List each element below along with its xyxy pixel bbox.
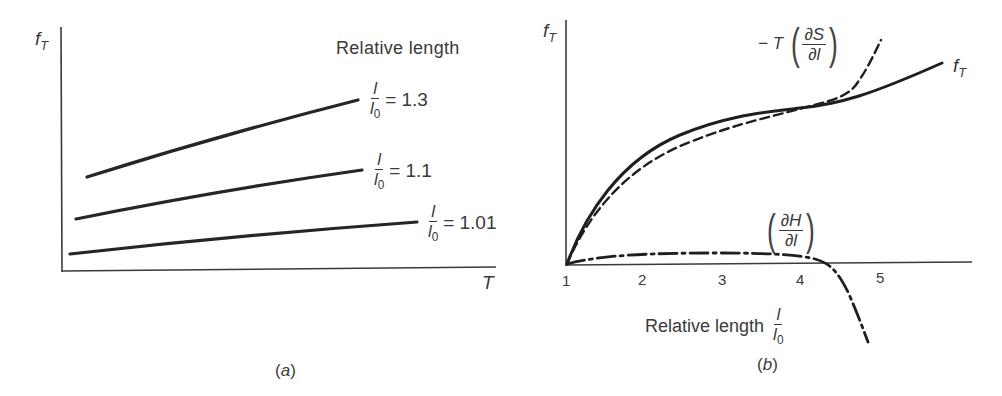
ratio-value: = 1.3 <box>385 89 428 110</box>
caption-paren-close: ) <box>290 361 296 380</box>
fraction-numerator: l <box>371 80 379 99</box>
panel-a-legend-title: Relative length <box>336 38 460 59</box>
f-t-sub: T <box>958 65 966 80</box>
y-label-sub: T <box>548 30 556 45</box>
entropy-fraction: ∂S ∂l <box>802 26 826 63</box>
fraction-numerator: l <box>375 151 383 170</box>
ratio-fraction: l l0 <box>428 203 438 243</box>
panel-a-caption: (a) <box>275 361 296 381</box>
ratio-value: = 1.1 <box>389 160 432 181</box>
paren-open: ( <box>767 208 776 252</box>
curve-label-1-01: l l0 = 1.01 <box>428 203 497 243</box>
entropy-term-label: − T ( ∂S ∂l ) <box>758 22 841 66</box>
panel-b-curves <box>567 40 942 342</box>
panel-b-x-axis <box>566 262 972 265</box>
fraction-numerator: ∂H <box>779 212 804 231</box>
curve-label-1-1: l l0 = 1.1 <box>374 151 432 191</box>
entropy-prefix: − T <box>758 34 783 53</box>
curve-entropy-term <box>567 40 881 264</box>
caption-paren-close: ) <box>772 355 778 374</box>
curve-label-1-3: l l0 = 1.3 <box>370 80 428 120</box>
panel-a-y-label: fT <box>35 28 48 53</box>
paren-open: ( <box>791 22 800 66</box>
panel-b-y-label: fT <box>543 20 556 45</box>
curve-f-t <box>567 63 942 264</box>
curve-ratio-1-3 <box>87 100 358 177</box>
figure-canvas <box>0 0 1002 396</box>
x-label-fraction: l l0 <box>773 306 783 346</box>
paren-close: ) <box>806 208 815 252</box>
curve-ratio-1-01 <box>70 222 417 254</box>
panel-b-caption: (b) <box>757 355 778 375</box>
fraction-denominator: ∂l <box>785 231 797 249</box>
x-tick-2: 2 <box>638 271 646 288</box>
ratio-value: = 1.01 <box>443 212 496 233</box>
ratio-fraction: l l0 <box>370 80 380 120</box>
fraction-subscript: 0 <box>374 107 381 121</box>
caption-letter: a <box>281 361 290 380</box>
x-tick-3: 3 <box>718 271 726 288</box>
paren-close: ) <box>829 22 838 66</box>
panel-a-curves <box>70 100 417 254</box>
panel-a-x-axis <box>62 267 496 271</box>
caption-letter: b <box>763 355 772 374</box>
panel-a-y-axis <box>61 27 62 272</box>
x-tick-4: 4 <box>796 271 804 288</box>
x-tick-5: 5 <box>876 269 884 286</box>
enthalpy-term-label: ( ∂H ∂l ) <box>764 208 818 252</box>
fraction-subscript: 0 <box>378 178 385 192</box>
curve-ratio-1-1 <box>76 170 362 219</box>
fraction-subscript: 0 <box>777 333 784 347</box>
panel-b-x-label: Relative length l l0 <box>645 306 784 346</box>
ratio-fraction: l l0 <box>374 151 384 191</box>
x-tick-1: 1 <box>562 272 570 289</box>
fraction-numerator: l <box>774 306 782 325</box>
f-t-curve-label: fT <box>953 55 966 80</box>
fraction-numerator: l <box>429 203 437 222</box>
fraction-subscript: 0 <box>432 230 439 244</box>
panel-a-x-label: T <box>482 272 494 294</box>
y-label-sub: T <box>40 38 48 53</box>
enthalpy-fraction: ∂H ∂l <box>779 212 804 249</box>
fraction-numerator: ∂S <box>802 26 826 45</box>
fraction-denominator: ∂l <box>808 45 820 63</box>
x-label-text: Relative length <box>645 316 764 336</box>
